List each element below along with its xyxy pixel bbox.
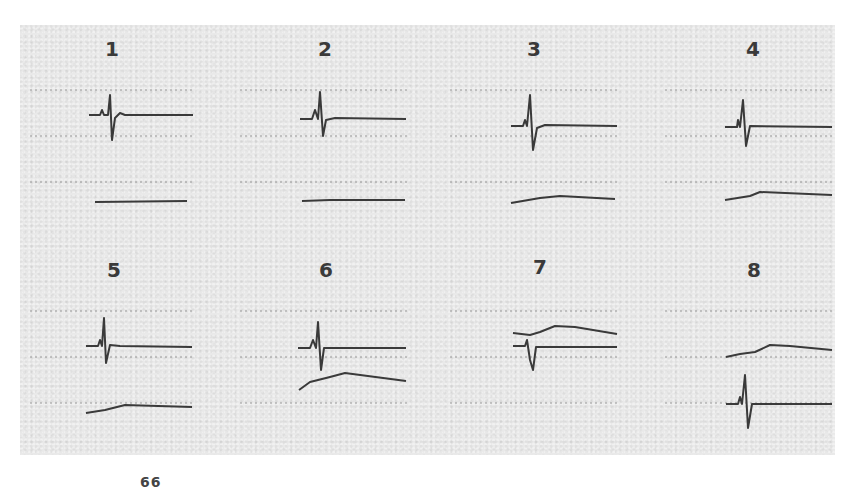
panel-8-lower-trace bbox=[726, 375, 832, 428]
panel-4-lower-trace bbox=[725, 192, 832, 200]
panel-7-label: 7 bbox=[533, 255, 547, 279]
panel-6-label: 6 bbox=[319, 258, 333, 282]
panel-6-upper-trace bbox=[298, 322, 406, 370]
panel-1-lower-trace bbox=[95, 201, 187, 202]
panel-4-label: 4 bbox=[746, 37, 760, 61]
panel-5-label: 5 bbox=[107, 258, 121, 282]
panel-8-label: 8 bbox=[747, 258, 761, 282]
panel-5-lower-trace bbox=[86, 405, 192, 413]
traces bbox=[86, 92, 832, 428]
panel-7-upper-trace bbox=[513, 326, 617, 335]
panel-8-upper-trace bbox=[726, 345, 832, 357]
panel-7-lower-trace bbox=[513, 340, 617, 370]
panel-2-upper-trace bbox=[300, 92, 406, 136]
panel-1-label: 1 bbox=[105, 37, 119, 61]
panel-1-upper-trace bbox=[89, 95, 193, 140]
panel-3-lower-trace bbox=[511, 196, 615, 203]
panel-5-upper-trace bbox=[86, 318, 192, 363]
panel-3-upper-trace bbox=[511, 95, 617, 150]
panel-3-label: 3 bbox=[527, 37, 541, 61]
panel-2-lower-trace bbox=[302, 200, 405, 201]
grid-lines bbox=[30, 90, 832, 403]
page-footer-mark: 66 bbox=[140, 474, 161, 490]
panel-6-lower-trace bbox=[299, 373, 406, 390]
panel-2-label: 2 bbox=[318, 37, 332, 61]
panel-4-upper-trace bbox=[725, 100, 832, 146]
